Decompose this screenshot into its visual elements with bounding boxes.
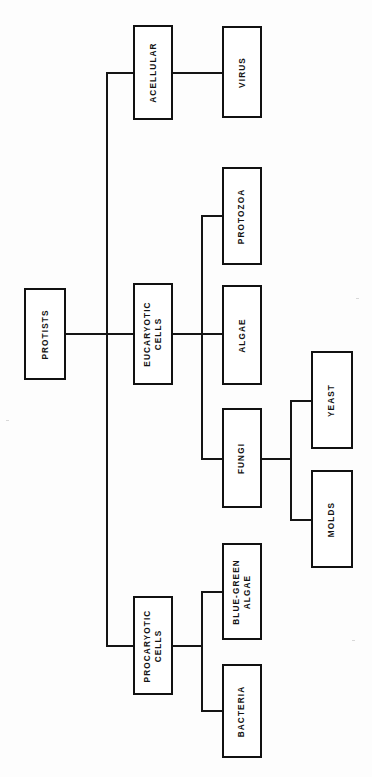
edge-bus-to-yeast: [290, 400, 312, 402]
edge-fungi-to-bus: [262, 458, 291, 460]
node-eucaryotic-cells-label: EUCARYOTIC CELLS: [142, 301, 164, 366]
node-protozoa-label: PROTOZOA: [237, 188, 248, 243]
node-procaryotic-cells-label: PROCARYOTIC CELLS: [142, 609, 164, 682]
edge-protists-to-trunk: [66, 333, 107, 335]
node-fungi-label: FUNGI: [236, 442, 247, 473]
node-blue-green-algae[interactable]: BLUE-GREEN ALGAE: [222, 543, 262, 640]
edge-bus-to-blue-green-algae: [201, 591, 223, 593]
node-bacteria[interactable]: BACTERIA: [222, 664, 262, 758]
edge-procaryotic-bus: [201, 591, 203, 711]
node-virus-label: VIRUS: [237, 57, 248, 88]
node-bacteria-label: BACTERIA: [237, 685, 248, 737]
edge-fungi-bus: [290, 400, 292, 520]
node-molds-label: MOLDS: [326, 501, 337, 536]
node-eucaryotic-cells[interactable]: EUCARYOTIC CELLS: [133, 283, 173, 385]
scan-speck: [6, 420, 9, 421]
edge-acellular-to-virus: [172, 72, 223, 74]
scan-speck: [356, 298, 359, 299]
node-yeast[interactable]: YEAST: [311, 351, 353, 449]
edge-bus-to-molds: [290, 519, 312, 521]
node-fungi[interactable]: FUNGI: [222, 408, 262, 508]
edge-bus-to-bacteria: [201, 710, 223, 712]
node-algae[interactable]: ALGAE: [222, 285, 262, 385]
node-acellular[interactable]: ACELLULAR: [133, 25, 173, 120]
node-algae-label: ALGAE: [237, 318, 248, 352]
node-protists-label: PROTISTS: [40, 309, 51, 359]
node-blue-green-algae-label: BLUE-GREEN ALGAE: [231, 559, 253, 625]
node-protists[interactable]: PROTISTS: [24, 288, 66, 380]
edge-trunk-to-procaryotic: [106, 645, 134, 647]
edge-eucaryotic-bus: [201, 215, 203, 459]
edge-trunk-to-eucaryotic: [106, 333, 134, 335]
edge-eucaryotic-to-bus: [172, 333, 202, 335]
edge-trunk-to-acellular: [106, 72, 134, 74]
edge-procaryotic-to-bus: [172, 645, 202, 647]
node-virus[interactable]: VIRUS: [222, 26, 262, 118]
node-acellular-label: ACELLULAR: [148, 42, 159, 102]
node-procaryotic-cells[interactable]: PROCARYOTIC CELLS: [133, 596, 173, 695]
edge-bus-to-algae: [201, 333, 223, 335]
node-yeast-label: YEAST: [327, 383, 338, 416]
node-molds[interactable]: MOLDS: [311, 470, 353, 568]
edge-bus-to-fungi: [201, 458, 223, 460]
node-protozoa[interactable]: PROTOZOA: [222, 167, 262, 265]
taxonomy-diagram: PROTISTS ACELLULAR EUCARYOTIC CELLS PROC…: [0, 0, 372, 777]
edge-main-trunk: [106, 72, 108, 646]
scan-speck: [352, 640, 355, 641]
edge-bus-to-protozoa: [201, 215, 223, 217]
